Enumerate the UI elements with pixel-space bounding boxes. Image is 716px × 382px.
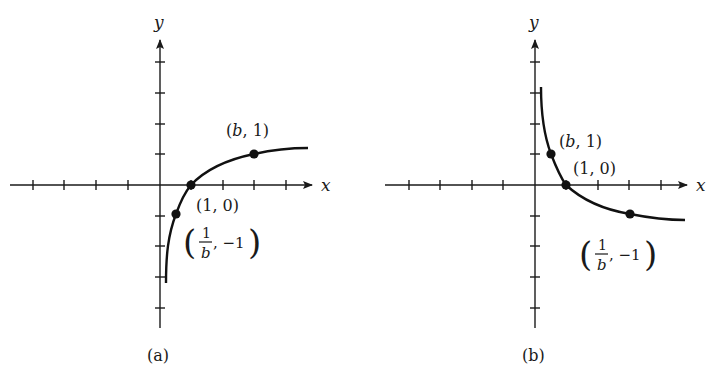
svg-text:(: ( xyxy=(183,222,196,262)
point-inv-b-neg1-a xyxy=(171,209,180,218)
y-axis-a xyxy=(155,40,165,328)
panel-a: x y (b, 1) (1, 0) ( 1 b , −1 ) (a) xyxy=(10,12,331,365)
svg-text:b: b xyxy=(201,244,211,262)
point-1-0-b xyxy=(561,180,570,189)
label-1-0-b: (1, 0) xyxy=(573,159,616,178)
svg-text:): ) xyxy=(644,234,657,274)
label-b-1-b: (b, 1) xyxy=(559,132,602,151)
label-inv-b-neg1-b: ( 1 b , −1 ) xyxy=(579,234,657,274)
point-b-1-a xyxy=(249,149,258,158)
y-axis-label-a: y xyxy=(153,12,164,32)
figure: x y (b, 1) (1, 0) ( 1 b , −1 ) (a) xyxy=(0,0,716,382)
panel-b: x y (b, 1) (1, 0) ( 1 b , −1 ) (b) xyxy=(385,12,706,365)
svg-text:b: b xyxy=(597,256,607,274)
y-axis-label-b: y xyxy=(528,12,539,32)
svg-text:, −1: , −1 xyxy=(213,234,245,252)
point-1-0-a xyxy=(186,180,195,189)
x-axis-label-a: x xyxy=(321,175,331,195)
x-axis-a xyxy=(10,180,312,190)
point-inv-b-neg1-b xyxy=(625,209,634,218)
log-curve-b xyxy=(541,87,685,220)
svg-text:(: ( xyxy=(579,234,592,274)
point-b-1-b xyxy=(546,149,555,158)
x-axis-label-b: x xyxy=(696,175,706,195)
caption-a: (a) xyxy=(147,346,169,365)
svg-text:1: 1 xyxy=(598,237,607,253)
label-b-1-a: (b, 1) xyxy=(226,121,269,140)
label-inv-b-neg1-a: ( 1 b , −1 ) xyxy=(183,222,261,262)
x-axis-b xyxy=(385,180,687,190)
caption-b: (b) xyxy=(522,346,545,365)
y-axis-b xyxy=(530,40,540,328)
log-curve-a xyxy=(166,148,308,283)
svg-text:, −1: , −1 xyxy=(609,246,641,264)
svg-text:): ) xyxy=(248,222,261,262)
svg-text:1: 1 xyxy=(202,225,211,241)
label-1-0-a: (1, 0) xyxy=(196,196,239,215)
